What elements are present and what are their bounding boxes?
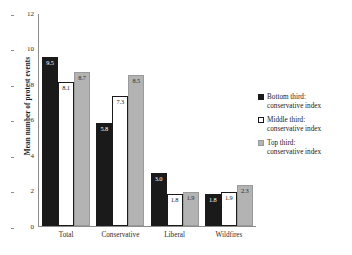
y-tick-label: 0 xyxy=(14,224,34,231)
bar-value-label: 8.1 xyxy=(59,84,73,91)
y-tick-mark xyxy=(11,192,14,193)
bar[interactable]: 8.1 xyxy=(58,82,74,226)
y-tick-mark xyxy=(11,228,14,229)
bar-value-label: 1.9 xyxy=(184,194,198,201)
y-tick-mark xyxy=(11,50,14,51)
y-tick-mark xyxy=(11,15,14,16)
legend-swatch-icon xyxy=(258,117,264,123)
legend-label-line2: conservative index xyxy=(267,148,321,157)
bar-value-label: 9.5 xyxy=(43,59,57,66)
y-tick-label: 4 xyxy=(14,153,34,160)
bar-group-bars: 9.58.18.7 xyxy=(42,14,90,226)
plot-area: 024681012 9.58.18.75.87.38.53.01.81.91.8… xyxy=(38,14,256,227)
legend-item[interactable]: Bottom third:conservative index xyxy=(258,93,350,110)
x-tick-label: Liberal xyxy=(148,231,202,239)
bar[interactable]: 8.5 xyxy=(128,75,144,226)
bar-group: 3.01.81.9 xyxy=(148,14,202,226)
legend-label: Bottom third:conservative index xyxy=(267,93,321,110)
x-tick-label: Conservative xyxy=(93,231,147,239)
bar-value-label: 5.8 xyxy=(97,125,111,132)
bar[interactable]: 1.8 xyxy=(167,194,183,226)
bar[interactable]: 7.3 xyxy=(112,96,128,226)
bar-value-label: 1.9 xyxy=(222,194,236,201)
legend-label-line2: conservative index xyxy=(267,102,321,111)
y-tick-label: 2 xyxy=(14,188,34,195)
bar-group-bars: 3.01.81.9 xyxy=(151,14,199,226)
y-tick-mark xyxy=(11,121,14,122)
bar-group: 9.58.18.7 xyxy=(39,14,93,226)
bar-chart-figure: Mean number of protest events 024681012 … xyxy=(0,0,352,255)
y-tick-label: 8 xyxy=(14,82,34,89)
bar-group-bars: 5.87.38.5 xyxy=(96,14,144,226)
bar-value-label: 7.3 xyxy=(113,98,127,105)
legend-swatch-icon xyxy=(258,140,264,146)
y-tick-mark xyxy=(11,157,14,158)
bar[interactable]: 3.0 xyxy=(151,173,167,226)
y-tick-label: 6 xyxy=(14,117,34,124)
bar[interactable]: 1.8 xyxy=(205,194,221,226)
y-tick-label: 12 xyxy=(14,11,34,18)
bar-value-label: 1.8 xyxy=(206,196,220,203)
legend-item[interactable]: Middle third:conservative index xyxy=(258,116,350,133)
bar-group: 1.81.92.3 xyxy=(202,14,256,226)
x-tick-label: Total xyxy=(39,231,93,239)
bar-group: 5.87.38.5 xyxy=(93,14,147,226)
bar-value-label: 8.7 xyxy=(75,74,89,81)
bar[interactable]: 8.7 xyxy=(74,72,90,226)
bar-value-label: 2.3 xyxy=(238,187,252,194)
legend-label: Top third:conservative index xyxy=(267,139,321,156)
bar[interactable]: 2.3 xyxy=(237,185,253,226)
chart-legend: Bottom third:conservative indexMiddle th… xyxy=(258,93,350,162)
y-tick-label: 10 xyxy=(14,46,34,53)
y-tick-mark xyxy=(11,86,14,87)
bar-value-label: 3.0 xyxy=(152,175,166,182)
legend-label: Middle third:conservative index xyxy=(267,116,321,133)
legend-item[interactable]: Top third:conservative index xyxy=(258,139,350,156)
x-axis-labels: TotalConservativeLiberalWildfires xyxy=(39,231,256,239)
bar-group-bars: 1.81.92.3 xyxy=(205,14,253,226)
x-tick-label: Wildfires xyxy=(202,231,256,239)
bar[interactable]: 1.9 xyxy=(183,192,199,226)
legend-label-line2: conservative index xyxy=(267,125,321,134)
bar[interactable]: 9.5 xyxy=(42,57,58,226)
bar-value-label: 1.8 xyxy=(168,196,182,203)
bar-groups: 9.58.18.75.87.38.53.01.81.91.81.92.3 xyxy=(39,14,256,226)
bar[interactable]: 1.9 xyxy=(221,192,237,226)
bar[interactable]: 5.8 xyxy=(96,123,112,226)
legend-swatch-icon xyxy=(258,94,264,100)
x-axis-line xyxy=(38,226,256,227)
bar-value-label: 8.5 xyxy=(129,77,143,84)
